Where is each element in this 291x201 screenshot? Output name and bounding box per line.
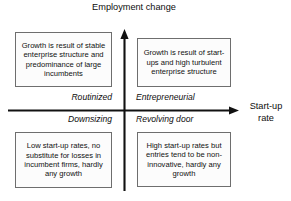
quadrant-box-bottom-right: High start-up rates but entries tend to …: [137, 132, 231, 187]
quadrant-box-top-left: Growth is result of stable enterprise st…: [15, 32, 112, 87]
right-arrow-icon: [229, 106, 239, 114]
quadrant-box-bottom-right-text: High start-up rates but entries tend to …: [141, 141, 227, 179]
quadrant-label-revolving-door: Revolving door: [136, 114, 193, 124]
quadrant-box-top-right-text: Growth is result of start-ups and high t…: [141, 48, 227, 76]
up-arrow-icon: [120, 29, 128, 39]
quadrant-label-routinized: Routinized: [71, 92, 112, 102]
quadrant-label-entrepreneurial: Entrepreneurial: [136, 92, 195, 102]
quadrant-label-downsizing: Downsizing: [68, 114, 112, 124]
quadrant-box-bottom-left-text: Low start-up rates, no substitute for lo…: [19, 141, 108, 179]
quadrant-box-top-right: Growth is result of start-ups and high t…: [137, 38, 231, 87]
quadrant-box-top-left-text: Growth is result of stable enterprise st…: [19, 41, 108, 79]
quadrant-box-bottom-left: Low start-up rates, no substitute for lo…: [15, 132, 112, 188]
quadrant-diagram: Employment change Start-up rate Routiniz…: [0, 0, 291, 201]
